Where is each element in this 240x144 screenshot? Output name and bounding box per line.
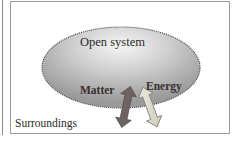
surroundings-label: Surroundings [15,118,77,130]
system-label: Open system [80,36,145,49]
matter-label: Matter [80,85,114,97]
energy-label: Energy [146,81,182,93]
